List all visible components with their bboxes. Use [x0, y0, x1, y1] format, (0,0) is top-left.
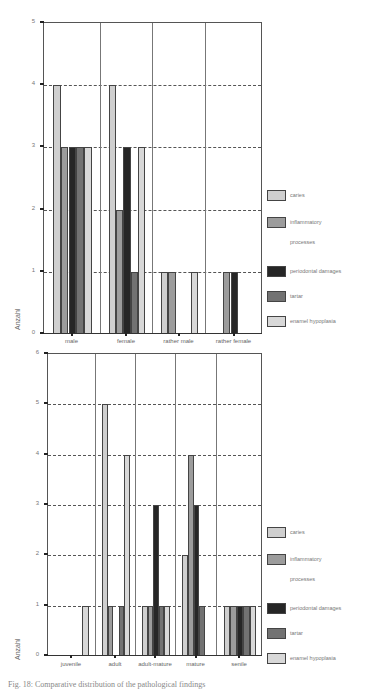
y-tick-label: 3	[23, 142, 35, 148]
y-tick-mark	[40, 83, 44, 85]
legend-label: enamel hypoplasia	[290, 655, 336, 661]
bar-enamel-hypoplasia	[124, 455, 130, 656]
group-separator	[135, 354, 136, 655]
x-tick-mark	[195, 655, 197, 658]
y-tick-mark	[40, 208, 44, 210]
x-category-label: rather female	[205, 338, 262, 344]
legend-label: caries	[290, 192, 305, 198]
plot-area	[43, 22, 262, 333]
x-tick-mark	[70, 655, 72, 658]
y-tick-label: 4	[23, 80, 35, 86]
y-tick-label: 1	[23, 267, 35, 273]
x-tick-mark	[114, 655, 116, 658]
bar-inflammatory-processes	[168, 272, 175, 334]
bar-enamel-hypoplasia	[191, 272, 198, 334]
group-separator	[205, 23, 206, 333]
bar-enamel-hypoplasia	[250, 606, 256, 656]
legend-swatch	[267, 266, 286, 277]
bar-inflammatory-processes	[61, 147, 69, 334]
x-category-label: adult-mature	[135, 661, 175, 667]
bar-inflammatory-processes	[223, 272, 231, 334]
x-tick-mark	[178, 333, 180, 336]
x-tick-mark	[71, 333, 73, 336]
bar-tartar	[76, 147, 84, 334]
legend-swatch	[267, 316, 286, 327]
x-category-label: rather male	[152, 338, 205, 344]
gridline	[48, 404, 261, 405]
legend-label: tartar	[290, 630, 303, 636]
legend-label: caries	[290, 529, 305, 535]
group-separator	[216, 354, 217, 655]
x-category-label: senile	[216, 661, 262, 667]
bar-tartar	[199, 606, 205, 656]
y-axis-label: Anzahl	[14, 309, 21, 330]
legend-label: tartar	[290, 293, 303, 299]
y-tick-mark	[44, 654, 48, 656]
gridline	[48, 455, 261, 456]
x-category-label: male	[43, 338, 100, 344]
legend-swatch	[267, 628, 286, 639]
legend-swatch	[267, 653, 286, 664]
legend-label: enamel hypoplasia	[290, 318, 336, 324]
x-tick-mark	[154, 655, 156, 658]
x-category-label: female	[100, 338, 152, 344]
legend-label: periodontal damages	[290, 268, 341, 274]
legend-swatch	[267, 527, 286, 538]
legend-label-cont: processes	[290, 576, 315, 582]
legend-label: inflammatory	[290, 556, 321, 562]
bar-inflammatory-processes	[116, 210, 123, 334]
legend-label: periodontal damages	[290, 605, 341, 611]
y-tick-mark	[44, 402, 48, 404]
bar-tartar	[131, 272, 138, 334]
y-tick-label: 4	[27, 450, 39, 456]
bar-enamel-hypoplasia	[84, 147, 92, 334]
legend-label: inflammatory	[290, 219, 321, 225]
legend-swatch	[267, 603, 286, 614]
y-tick-mark	[44, 352, 48, 354]
legend-swatch	[267, 190, 286, 201]
y-tick-label: 3	[27, 500, 39, 506]
y-tick-label: 2	[23, 205, 35, 211]
x-axis-line	[43, 333, 262, 334]
y-tick-mark	[40, 145, 44, 147]
bar-caries	[109, 85, 116, 334]
x-category-label: juvenile	[47, 661, 95, 667]
y-axis-label: Anzahl	[14, 639, 21, 660]
x-tick-mark	[125, 333, 127, 336]
legend-swatch	[267, 554, 286, 565]
x-category-label: mature	[175, 661, 216, 667]
group-separator	[100, 23, 101, 333]
plot-area	[47, 353, 262, 655]
bar-periodontal-damages	[231, 272, 239, 334]
y-tick-label: 6	[27, 349, 39, 355]
y-tick-label: 5	[27, 399, 39, 405]
bar-periodontal-damages	[123, 147, 130, 334]
y-tick-label: 0	[27, 651, 39, 657]
bar-enamel-hypoplasia	[164, 606, 170, 656]
y-tick-label: 2	[27, 550, 39, 556]
x-tick-mark	[238, 655, 240, 658]
legend-label-cont: processes	[290, 239, 315, 245]
legend-swatch	[267, 291, 286, 302]
bar-caries	[53, 85, 61, 334]
figure-caption: Fig. 18: Comparative distribution of the…	[8, 680, 205, 689]
bar-periodontal-damages	[69, 147, 77, 334]
bar-enamel-hypoplasia	[82, 606, 89, 656]
y-tick-mark	[40, 332, 44, 334]
y-tick-mark	[44, 604, 48, 606]
bar-inflammatory-processes	[108, 606, 114, 656]
bar-enamel-hypoplasia	[138, 147, 145, 334]
x-category-label: adult	[95, 661, 135, 667]
y-tick-mark	[40, 21, 44, 23]
y-tick-mark	[44, 453, 48, 455]
y-tick-label: 0	[23, 329, 35, 335]
y-tick-mark	[44, 553, 48, 555]
group-separator	[95, 354, 96, 655]
bar-caries	[161, 272, 168, 334]
y-tick-label: 1	[27, 601, 39, 607]
x-tick-mark	[233, 333, 235, 336]
y-tick-label: 5	[23, 18, 35, 24]
y-tick-mark	[44, 503, 48, 505]
group-separator	[152, 23, 153, 333]
group-separator	[175, 354, 176, 655]
